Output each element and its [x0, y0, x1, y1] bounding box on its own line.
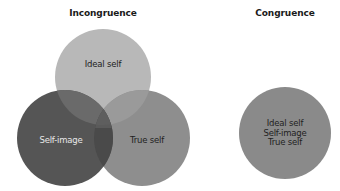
label-true-self: True self	[130, 135, 164, 145]
label-ideal-self: Ideal self	[85, 59, 121, 69]
label-self-image: Self-image	[39, 135, 82, 145]
venn-diagram	[0, 0, 340, 191]
label-true-self: True self	[263, 138, 306, 148]
congruence-labels: Ideal self Self-image True self	[263, 119, 306, 148]
